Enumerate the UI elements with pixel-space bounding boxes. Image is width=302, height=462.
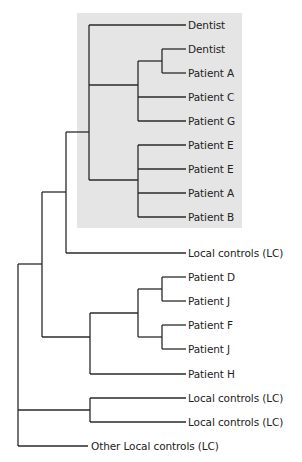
leaf-label: Local controls (LC): [188, 416, 283, 428]
leaf-label: Patient H: [188, 368, 235, 380]
leaf-label: Patient E: [188, 163, 234, 175]
leaf-label: Dentist: [188, 19, 225, 31]
leaf-label: Patient F: [188, 319, 233, 331]
leaf-label: Patient D: [188, 271, 235, 283]
leaf-label: Local controls (LC): [188, 392, 283, 404]
leaf-label: Patient E: [188, 139, 234, 151]
leaf-label: Local controls (LC): [188, 247, 283, 259]
dendrogram: DentistDentistPatient APatient CPatient …: [0, 0, 302, 462]
leaf-label: Patient G: [188, 115, 235, 127]
leaf-label: Other Local controls (LC): [91, 440, 219, 452]
leaf-label: Patient C: [188, 91, 234, 103]
leaf-label: Patient J: [188, 295, 230, 307]
leaf-label: Patient B: [188, 211, 234, 223]
leaf-label: Patient J: [188, 343, 230, 355]
leaf-label: Patient A: [188, 187, 234, 199]
leaf-label: Patient A: [188, 67, 234, 79]
leaf-label: Dentist: [188, 43, 225, 55]
